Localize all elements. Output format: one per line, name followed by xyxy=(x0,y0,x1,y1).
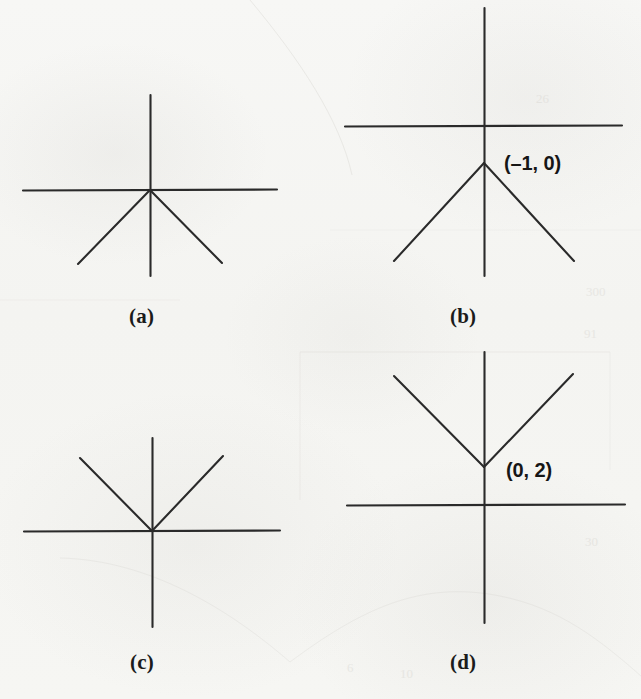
panel-a[interactable] xyxy=(23,95,277,276)
panel-d-x-axis xyxy=(347,505,625,506)
panel-d-graph-right-arm xyxy=(484,374,573,467)
panel-a-graph-left-arm xyxy=(78,190,150,264)
panel-caption-d: (d) xyxy=(450,650,476,675)
panel-d-vertex-label: (0, 2) xyxy=(506,459,552,482)
panel-b-graph-right-arm xyxy=(484,163,574,261)
panel-c-graph-right-arm xyxy=(152,456,223,531)
panel-b[interactable] xyxy=(345,8,622,276)
panel-c[interactable] xyxy=(24,438,280,627)
panel-caption-c: (c) xyxy=(130,650,154,675)
figure-page: 26 300 91 30 10 6 xyxy=(0,0,641,699)
panel-b-graph-left-arm xyxy=(394,163,484,261)
panel-d[interactable] xyxy=(347,352,625,623)
panel-a-graph-right-arm xyxy=(150,190,222,263)
answer-choice-graphs xyxy=(0,0,641,699)
panel-caption-b: (b) xyxy=(450,304,476,329)
panel-caption-a: (a) xyxy=(129,304,154,329)
panel-c-graph-left-arm xyxy=(80,458,152,531)
panel-d-graph-left-arm xyxy=(394,376,484,467)
panel-b-vertex-label: (–1, 0) xyxy=(504,152,561,175)
